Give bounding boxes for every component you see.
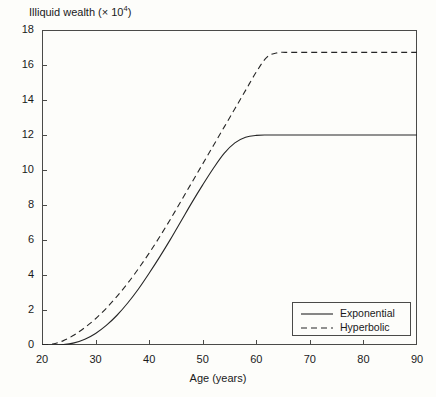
legend-label-hyperbolic: Hyperbolic (340, 322, 390, 333)
y-tick-mark (42, 310, 47, 311)
x-tick-label: 90 (397, 354, 436, 365)
legend-swatch-solid (300, 309, 334, 319)
y-tick-label: 0 (0, 339, 34, 350)
y-axis-title-base: Illiquid wealth (× 10 (29, 6, 123, 18)
y-tick-label: 10 (0, 164, 34, 175)
y-tick-label: 2 (0, 304, 34, 315)
x-tick-mark (96, 340, 97, 345)
x-tick-mark (203, 340, 204, 345)
legend-item-exponential: Exponential (293, 307, 410, 320)
y-tick-mark (42, 240, 47, 241)
y-tick-mark (42, 170, 47, 171)
chart-figure: Illiquid wealth (× 104) 024681012141618 … (0, 0, 436, 397)
y-tick-mark (42, 275, 47, 276)
x-tick-mark (256, 340, 257, 345)
y-tick-label: 6 (0, 234, 34, 245)
y-tick-mark (42, 100, 47, 101)
x-tick-mark (363, 340, 364, 345)
x-tick-label: 70 (290, 354, 330, 365)
y-tick-mark (42, 65, 47, 66)
y-axis-title: Illiquid wealth (× 104) (29, 5, 131, 19)
x-tick-mark (310, 340, 311, 345)
y-tick-mark (42, 135, 47, 136)
x-axis-label: Age (years) (0, 372, 436, 384)
x-tick-label: 60 (236, 354, 276, 365)
y-tick-label: 16 (0, 59, 34, 70)
y-tick-mark (42, 205, 47, 206)
y-tick-label: 4 (0, 269, 34, 280)
x-tick-label: 80 (343, 354, 383, 365)
y-axis-title-tail: ) (128, 6, 132, 18)
x-tick-label: 30 (76, 354, 116, 365)
x-tick-mark (149, 340, 150, 345)
y-tick-label: 18 (0, 24, 34, 35)
legend-item-hyperbolic: Hyperbolic (293, 321, 410, 334)
y-tick-label: 8 (0, 199, 34, 210)
x-tick-label: 40 (129, 354, 169, 365)
legend-label-exponential: Exponential (340, 308, 395, 319)
legend-swatch-dashed (300, 323, 334, 333)
y-tick-label: 14 (0, 94, 34, 105)
x-tick-label: 20 (22, 354, 62, 365)
chart-legend: Exponential Hyperbolic (292, 302, 411, 336)
y-tick-label: 12 (0, 129, 34, 140)
plot-area (42, 30, 417, 345)
x-tick-label: 50 (183, 354, 223, 365)
